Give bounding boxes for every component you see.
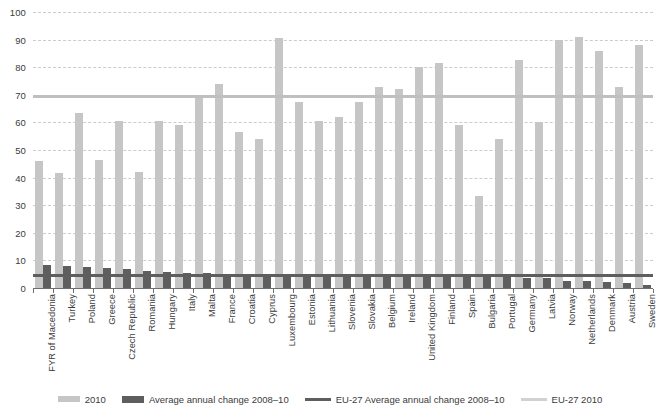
bar-annual-change[interactable] [123, 269, 131, 288]
bar-annual-change[interactable] [403, 276, 411, 288]
bar-category[interactable] [433, 12, 453, 288]
bar-category[interactable] [393, 12, 413, 288]
bar-annual-change[interactable] [483, 277, 491, 288]
bar-annual-change[interactable] [383, 276, 391, 288]
bar-category[interactable] [373, 12, 393, 288]
bar-category[interactable] [413, 12, 433, 288]
bar-category[interactable] [613, 12, 633, 288]
bar-category[interactable] [353, 12, 373, 288]
bar-2010[interactable] [175, 125, 183, 288]
x-axis-labels: FYR of MacedoniaTurkeyPolandGreeceCzech … [33, 294, 653, 378]
y-axis: 0102030405060708090100 [0, 0, 30, 288]
bar-2010[interactable] [255, 139, 263, 288]
bar-2010[interactable] [155, 121, 163, 288]
x-axis-label: Greece [107, 294, 117, 325]
bar-annual-change[interactable] [523, 278, 531, 288]
bar-annual-change[interactable] [103, 268, 111, 288]
y-axis-tick-label: 30 [15, 200, 26, 211]
bar-category[interactable] [173, 12, 193, 288]
legend-item[interactable]: EU-27 Average annual change 2008–10 [305, 394, 505, 405]
x-axis-tick [33, 289, 34, 293]
legend-item[interactable]: Average annual change 2008–10 [122, 394, 289, 405]
bar-category[interactable] [53, 12, 73, 288]
bar-2010[interactable] [135, 172, 143, 288]
bar-2010[interactable] [75, 113, 83, 288]
bar-2010[interactable] [95, 160, 103, 288]
x-axis-tick [633, 289, 634, 293]
bar-category[interactable] [213, 12, 233, 288]
bar-category[interactable] [33, 12, 53, 288]
x-axis-label: Slovakia [367, 294, 377, 330]
x-axis-tick [413, 289, 414, 293]
legend-label: 2010 [85, 394, 106, 405]
bar-category[interactable] [473, 12, 493, 288]
bar-category[interactable] [553, 12, 573, 288]
x-axis-label: Luxembourg [287, 294, 297, 346]
x-axis-label: Latvia [547, 294, 557, 319]
bar-annual-change[interactable] [423, 276, 431, 288]
bar-category[interactable] [73, 12, 93, 288]
bar-category[interactable] [493, 12, 513, 288]
bar-2010[interactable] [495, 139, 503, 288]
bar-2010[interactable] [415, 67, 423, 288]
bar-2010[interactable] [455, 125, 463, 288]
bar-category[interactable] [153, 12, 173, 288]
bar-annual-change[interactable] [363, 275, 371, 288]
bar-2010[interactable] [615, 87, 623, 288]
bar-2010[interactable] [35, 161, 43, 288]
bar-annual-change[interactable] [503, 277, 511, 288]
bar-2010[interactable] [635, 45, 643, 288]
bar-2010[interactable] [375, 87, 383, 288]
x-axis-tick [93, 289, 94, 293]
bar-category[interactable] [193, 12, 213, 288]
bar-category[interactable] [633, 12, 653, 288]
legend-swatch-icon [122, 396, 144, 403]
bar-category[interactable] [333, 12, 353, 288]
bar-2010[interactable] [355, 102, 363, 288]
bar-category[interactable] [253, 12, 273, 288]
bar-2010[interactable] [575, 37, 583, 288]
bar-annual-change[interactable] [83, 267, 91, 288]
bar-category[interactable] [293, 12, 313, 288]
bar-2010[interactable] [295, 102, 303, 288]
x-axis-tick [113, 289, 114, 293]
bar-2010[interactable] [535, 122, 543, 288]
bar-annual-change[interactable] [443, 276, 451, 288]
bar-2010[interactable] [55, 173, 63, 288]
bar-category[interactable] [313, 12, 333, 288]
bar-2010[interactable] [115, 121, 123, 288]
bar-2010[interactable] [555, 40, 563, 288]
x-axis-tick [653, 289, 654, 293]
bar-category[interactable] [593, 12, 613, 288]
bar-category[interactable] [273, 12, 293, 288]
bar-annual-change[interactable] [63, 266, 71, 288]
legend-item[interactable]: EU-27 2010 [521, 394, 603, 405]
bar-2010[interactable] [315, 121, 323, 288]
bar-category[interactable] [573, 12, 593, 288]
bar-category[interactable] [453, 12, 473, 288]
x-axis-tick [173, 289, 174, 293]
bar-annual-change[interactable] [463, 276, 471, 288]
bar-2010[interactable] [395, 89, 403, 288]
legend-item[interactable]: 2010 [58, 394, 106, 405]
x-axis-tick [193, 289, 194, 293]
bar-2010[interactable] [195, 95, 203, 288]
bar-2010[interactable] [215, 84, 223, 288]
bar-category[interactable] [133, 12, 153, 288]
x-axis-label: Austria [627, 294, 637, 323]
bar-annual-change[interactable] [583, 281, 591, 288]
bar-category[interactable] [513, 12, 533, 288]
chart-container: 0102030405060708090100 FYR of MacedoniaT… [0, 0, 660, 413]
bar-category[interactable] [93, 12, 113, 288]
bar-2010[interactable] [275, 38, 283, 288]
bar-2010[interactable] [335, 117, 343, 288]
bar-2010[interactable] [595, 51, 603, 288]
bar-category[interactable] [233, 12, 253, 288]
bar-annual-change[interactable] [563, 281, 571, 288]
bar-category[interactable] [113, 12, 133, 288]
x-axis-label: Ireland [407, 294, 417, 323]
bar-category[interactable] [533, 12, 553, 288]
bar-annual-change[interactable] [543, 278, 551, 288]
x-axis-label: Norway [567, 294, 577, 326]
bar-2010[interactable] [235, 132, 243, 288]
